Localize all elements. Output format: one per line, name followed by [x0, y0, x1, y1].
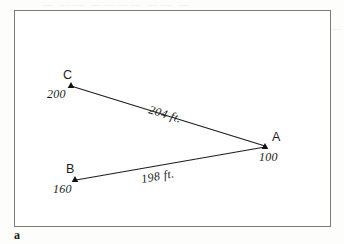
- point-elevation-c: 200: [47, 87, 66, 101]
- vertex-marker-b: [72, 176, 79, 182]
- distance-label-c-a: 204 ft.: [147, 102, 183, 125]
- vertex-marker-a: [262, 143, 269, 149]
- point-elevation-b: 160: [53, 182, 72, 196]
- vertex-marker-c: [68, 82, 75, 88]
- point-label-c: C: [63, 68, 72, 82]
- survey-traverse-diagram: C 200 A 100 B 160 204 ft. 198 ft.: [0, 0, 344, 244]
- point-label-b: B: [66, 162, 74, 176]
- figure-caption: a: [14, 229, 20, 241]
- point-label-a: A: [272, 130, 281, 144]
- point-elevation-a: 100: [259, 150, 278, 164]
- distance-label-b-a: 198 ft.: [140, 166, 175, 186]
